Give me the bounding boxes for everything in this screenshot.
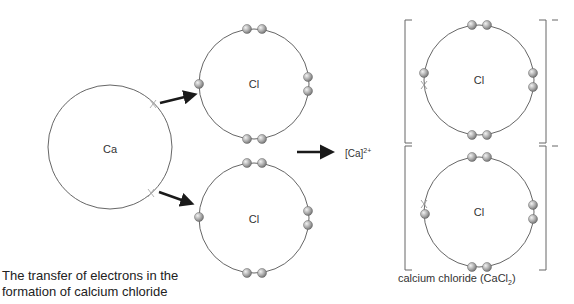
chloride-bottom-label: Cl bbox=[474, 206, 484, 218]
main-caption: The transfer of electrons in the formati… bbox=[2, 268, 178, 300]
calcium-label: Ca bbox=[103, 143, 117, 155]
calcium-ion-label: [Ca]2+ bbox=[345, 147, 371, 159]
ion-symbol: [Ca] bbox=[345, 148, 363, 159]
main-caption-line1: The transfer of electrons in the bbox=[2, 268, 178, 284]
diagram-canvas bbox=[0, 0, 574, 304]
chlorine-bottom-label: Cl bbox=[249, 213, 259, 225]
chloride-top-label: Cl bbox=[474, 74, 484, 86]
transfer-arrow-top bbox=[160, 95, 193, 103]
main-caption-line2: formation of calcium chloride bbox=[2, 284, 178, 300]
cross-electron-icon bbox=[148, 189, 154, 197]
product-caption-text: calcium chloride (CaCl bbox=[398, 272, 508, 284]
product-caption-end: ) bbox=[512, 272, 516, 284]
product-caption: calcium chloride (CaCl2) bbox=[398, 272, 516, 286]
chlorine-top-label: Cl bbox=[249, 78, 259, 90]
transfer-arrow-bottom bbox=[159, 192, 190, 203]
ion-charge: 2+ bbox=[363, 147, 371, 154]
